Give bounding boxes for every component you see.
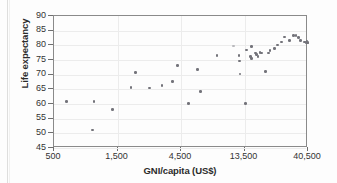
- gridline-horizontal: [54, 75, 306, 76]
- y-tick-label: 70: [24, 69, 46, 78]
- data-point: [161, 84, 164, 87]
- data-point: [244, 102, 247, 105]
- data-point: [238, 54, 241, 57]
- page-edge-artifact-secondary: [9, 0, 10, 183]
- data-point: [245, 49, 248, 52]
- data-point: [267, 52, 270, 55]
- data-point: [130, 86, 133, 89]
- data-point: [299, 39, 302, 42]
- gridline-vertical: [181, 16, 182, 146]
- data-point: [187, 102, 190, 105]
- y-tick-label: 90: [24, 11, 46, 20]
- data-point: [264, 70, 267, 73]
- x-axis-title: GNI/capita (US$): [53, 165, 307, 176]
- data-point: [269, 49, 272, 52]
- data-point: [280, 41, 283, 44]
- page-edge-artifact: [7, 0, 8, 183]
- data-point: [196, 68, 199, 71]
- data-point: [199, 90, 202, 93]
- y-tick-label: 55: [24, 113, 46, 122]
- x-tick-label: 40,500: [277, 152, 337, 161]
- gridline-horizontal: [54, 148, 306, 149]
- gridline-horizontal: [54, 133, 306, 134]
- y-tick-label: 85: [24, 25, 46, 34]
- data-point: [171, 80, 174, 83]
- gridline-horizontal: [54, 60, 306, 61]
- data-point: [250, 45, 253, 48]
- y-tick-label: 65: [24, 84, 46, 93]
- gridline-vertical: [245, 16, 246, 146]
- x-tick-label: 500: [23, 152, 83, 161]
- data-point: [297, 36, 300, 39]
- data-point: [176, 64, 179, 67]
- gridline-horizontal: [54, 119, 306, 120]
- y-tick-label: 45: [24, 143, 46, 152]
- gridline-horizontal: [54, 89, 306, 90]
- gridline-horizontal: [54, 45, 306, 46]
- plot-area: [53, 15, 307, 147]
- y-tick-label: 60: [24, 99, 46, 108]
- data-point: [273, 47, 276, 50]
- data-point: [307, 42, 310, 45]
- x-tick-label: 13,500: [214, 152, 274, 161]
- data-point: [111, 108, 114, 111]
- x-tick-label: 1,500: [87, 152, 147, 161]
- y-tick-label: 50: [24, 128, 46, 137]
- data-point: [65, 100, 68, 103]
- data-point: [260, 52, 263, 55]
- data-point: [257, 55, 260, 58]
- data-point: [216, 54, 219, 57]
- y-tick-label: 75: [24, 55, 46, 64]
- data-point: [232, 45, 235, 48]
- data-point: [238, 60, 241, 63]
- gridline-horizontal: [54, 104, 306, 105]
- scatter-chart-figure: Life expectancy GNI/capita (US$) 4550556…: [0, 0, 337, 183]
- y-tick-label: 80: [24, 40, 46, 49]
- data-point: [250, 57, 253, 60]
- gridline-vertical: [118, 16, 119, 146]
- gridline-horizontal: [54, 31, 306, 32]
- data-point: [288, 39, 291, 42]
- data-point: [283, 36, 286, 39]
- data-point: [93, 100, 96, 103]
- x-tick-label: 4,500: [150, 152, 210, 161]
- data-point: [134, 71, 137, 74]
- data-point: [91, 129, 94, 132]
